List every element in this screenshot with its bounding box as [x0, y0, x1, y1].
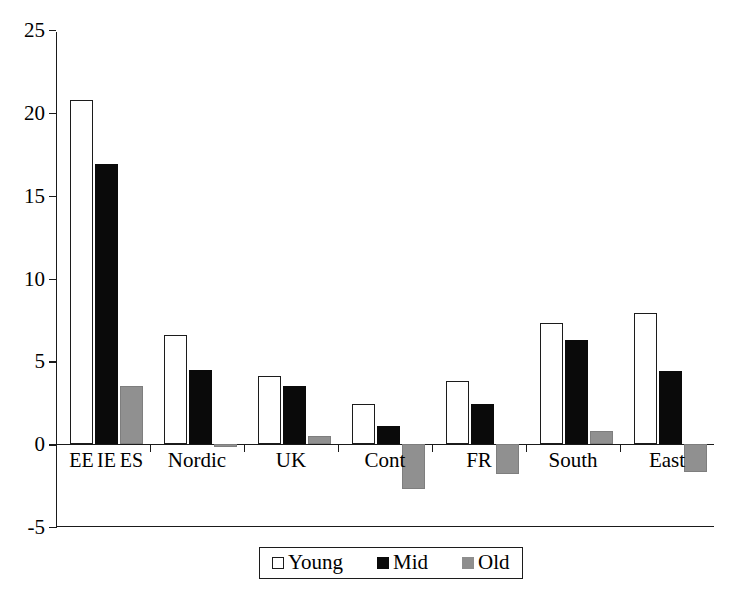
x-axis-group-label: Cont: [365, 450, 406, 471]
y-axis-tick: [49, 444, 56, 445]
y-axis-tick: [49, 527, 56, 528]
y-axis-tick-label: 15: [24, 185, 45, 206]
legend-item-young: Young: [272, 552, 343, 573]
bar-cont-young: [352, 404, 375, 444]
x-axis-zero-line: [56, 444, 714, 445]
y-axis-tick-label: 10: [24, 268, 45, 289]
y-axis-tick: [49, 196, 56, 197]
y-axis-tick: [49, 361, 56, 362]
x-axis-bottom-line: [56, 526, 714, 527]
legend-label-young: Young: [288, 552, 343, 573]
chart-legend: Young Mid Old: [259, 547, 523, 579]
x-axis-group-tick: [338, 444, 339, 452]
y-axis-tick-label: -5: [28, 517, 46, 538]
y-axis-tick-label: 25: [24, 20, 45, 41]
x-axis-group-tick: [620, 444, 621, 452]
bar-fr-mid: [471, 404, 494, 444]
x-axis-sublabel: ES: [120, 450, 143, 470]
x-axis-group-label: South: [548, 450, 597, 471]
x-axis-group-label: Nordic: [168, 450, 226, 471]
bar-south-mid: [565, 340, 588, 444]
x-axis-group-label: East: [649, 450, 685, 471]
y-axis-tick: [49, 30, 56, 31]
legend-label-mid: Mid: [393, 552, 428, 573]
legend-item-old: Old: [462, 552, 510, 573]
bar-nordic-old: [214, 444, 237, 447]
bar-ee-ie-es-mid: [95, 164, 118, 444]
y-axis-tick-label: 0: [35, 434, 46, 455]
x-axis-sublabel: EE: [69, 450, 93, 470]
x-axis-group-tick: [432, 444, 433, 452]
x-axis-group-tick: [150, 444, 151, 452]
bar-nordic-young: [164, 335, 187, 444]
legend-swatch-old-icon: [462, 557, 474, 569]
legend-label-old: Old: [478, 552, 510, 573]
bar-south-young: [540, 323, 563, 444]
bar-fr-young: [446, 381, 469, 444]
bar-east-young: [634, 313, 657, 444]
plot-area: 2520151050-5 EEIEESNordicUKContFRSouthEa…: [56, 30, 716, 530]
y-axis-tick-label: 5: [35, 351, 46, 372]
bar-south-old: [590, 431, 613, 444]
y-axis-tick: [49, 113, 56, 114]
bar-ee-ie-es-young: [70, 100, 93, 445]
x-axis-group-label: FR: [466, 450, 492, 471]
bar-uk-young: [258, 376, 281, 444]
legend-swatch-mid-icon: [377, 557, 389, 569]
x-axis-sublabel: IE: [97, 450, 116, 470]
y-axis-line: [56, 32, 57, 528]
y-axis-tick-label: 20: [24, 102, 45, 123]
bar-nordic-mid: [189, 370, 212, 445]
bar-east-old: [684, 444, 707, 472]
bar-chart: 2520151050-5 EEIEESNordicUKContFRSouthEa…: [0, 0, 737, 611]
y-axis-tick: [49, 279, 56, 280]
legend-swatch-young-icon: [272, 557, 284, 569]
bar-ee-ie-es-old: [120, 386, 143, 444]
bar-cont-mid: [377, 426, 400, 444]
x-axis-group-label: UK: [276, 450, 306, 471]
bar-fr-old: [496, 444, 519, 474]
bar-uk-old: [308, 436, 331, 444]
legend-item-mid: Mid: [377, 552, 428, 573]
x-axis-group-tick: [526, 444, 527, 452]
x-axis-group-tick: [244, 444, 245, 452]
bar-east-mid: [659, 371, 682, 444]
bar-uk-mid: [283, 386, 306, 444]
